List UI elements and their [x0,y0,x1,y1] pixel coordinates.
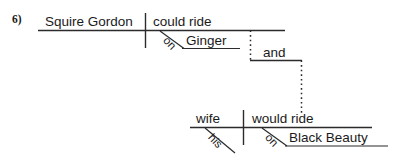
upper-clause-subject: Squire Gordon [45,15,133,29]
sentence-diagram: 6) Squire Gordon could ride on Ginger an… [0,0,395,158]
exercise-number-label: 6) [12,14,22,26]
upper-clause-preposition-object: Ginger [186,34,227,48]
upper-clause-predicate: could ride [153,15,212,29]
lower-clause-subject: wife [196,112,220,126]
lower-clause-predicate: would ride [252,112,314,126]
conjunction-label: and [263,46,286,60]
lower-clause-preposition-object: Black Beauty [289,131,368,145]
